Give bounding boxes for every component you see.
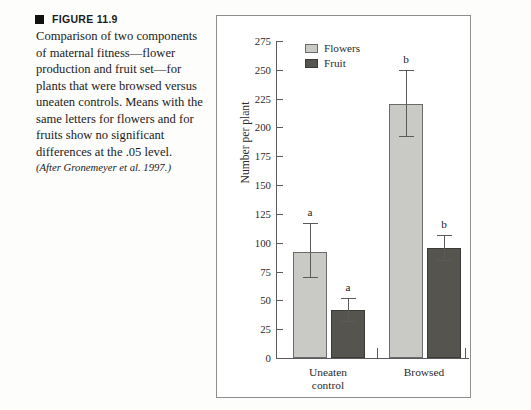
error-bar-cap-lower [437,260,452,261]
significance-letter: b [441,218,447,230]
y-axis-tick [277,329,283,330]
y-axis-tick-label: 0 [231,352,271,364]
x-axis-line-segment [431,358,469,359]
chart-legend: FlowersFruit [305,42,360,72]
x-axis-tick [465,348,466,359]
y-axis-tick-label: 50 [231,294,271,306]
y-axis-tick [277,70,283,71]
chart-panel: Number per plant 02550751001251501752002… [216,15,471,398]
legend-swatch-fruit [305,59,318,68]
x-axis-line-segment [335,358,431,359]
bar-fruit-browsed[interactable] [427,248,461,358]
y-axis-tick [277,185,283,186]
bar-chart-plot-area: Number per plant 02550751001251501752002… [217,16,470,397]
error-bar-stem [310,223,311,277]
y-axis-tick [277,243,283,244]
x-axis-category-label-line: control [287,379,369,392]
error-bar-cap-lower [399,136,414,137]
significance-letter: a [308,206,313,218]
x-axis-line-segment [276,358,335,359]
figure-number-label: FIGURE 11.9 [52,13,118,25]
y-axis-tick-label: 275 [231,35,271,47]
y-axis-tick [277,358,283,359]
error-bar-cap-lower [303,277,318,278]
x-axis-category-label-line: Browsed [383,366,465,379]
legend-label: Flowers [324,42,360,54]
significance-letter: b [403,53,409,65]
y-axis-tick [277,214,283,215]
y-axis-tick [277,99,283,100]
error-bar-cap-upper [399,70,414,71]
x-axis-tick [377,348,378,359]
error-bar-cap-upper [303,223,318,224]
caption-body-text: Comparison of two components of maternal… [36,28,208,160]
caption-header: FIGURE 11.9 [36,13,208,25]
y-axis-tick [277,127,283,128]
legend-label: Fruit [324,57,346,69]
y-axis-tick-label: 225 [231,93,271,105]
y-axis-tick-label: 250 [231,64,271,76]
y-axis-tick-label: 175 [231,150,271,162]
y-axis-tick-label: 150 [231,179,271,191]
y-axis-tick [277,300,283,301]
figure-caption: FIGURE 11.9 Comparison of two components… [36,13,208,175]
y-axis-line [276,41,277,359]
error-bar-cap-upper [341,298,356,299]
legend-item-fruit[interactable]: Fruit [305,57,360,69]
caption-source-citation: (After Gronemeyer et al. 1997.) [36,161,208,175]
x-axis-category-label-line: Uneaten [287,366,369,379]
y-axis-tick [277,41,283,42]
error-bar-stem [444,235,445,260]
legend-swatch-flowers [305,44,318,53]
error-bar-stem [406,70,407,136]
x-axis-category-label: Uneatencontrol [287,366,369,392]
legend-item-flowers[interactable]: Flowers [305,42,360,54]
error-bar-cap-lower [341,321,356,322]
bar-flowers-browsed[interactable] [389,104,423,358]
y-axis-tick-label: 200 [231,121,271,133]
y-axis-tick-label: 100 [231,237,271,249]
filled-square-icon [35,15,44,24]
y-axis-tick-label: 25 [231,323,271,335]
error-bar-stem [348,298,349,321]
y-axis-tick [277,156,283,157]
y-axis-tick [277,272,283,273]
y-axis-title: Number per plant [239,63,252,223]
y-axis-tick-label: 125 [231,208,271,220]
y-axis-tick-label: 75 [231,266,271,278]
significance-letter: a [346,281,351,293]
error-bar-cap-upper [437,235,452,236]
x-axis-category-label: Browsed [383,366,465,379]
